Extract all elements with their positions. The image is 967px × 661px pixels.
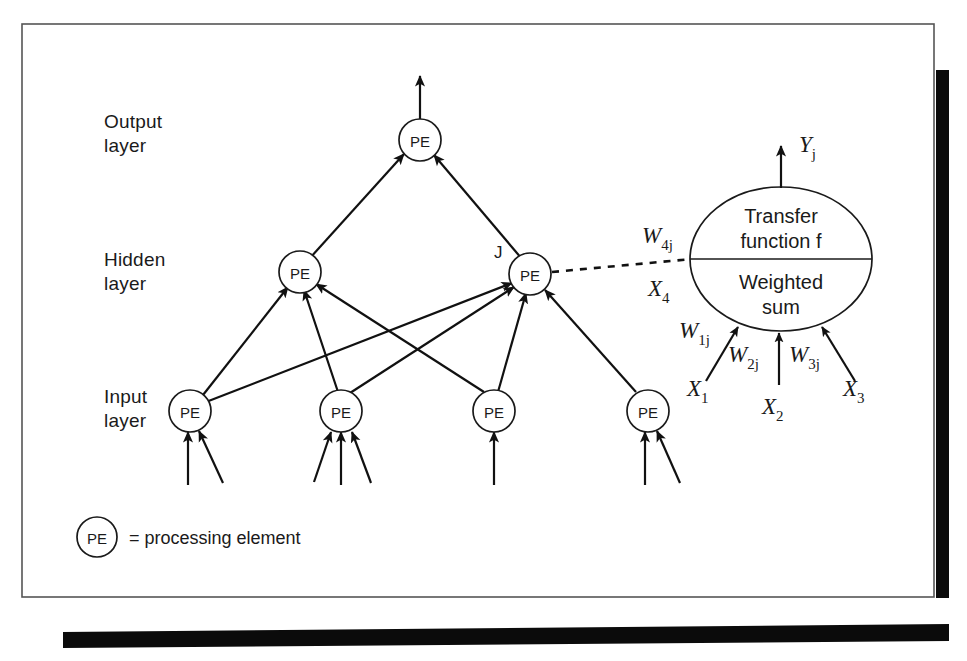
- layer-label-hidden: Hidden layer: [104, 249, 165, 294]
- weighted-sum-line2: sum: [762, 296, 800, 318]
- input-arrow-4b: [657, 431, 680, 483]
- input-layer-line2: layer: [104, 410, 147, 431]
- pe-node-hidden-1[interactable]: PE: [279, 251, 321, 293]
- input-3-label: X3: [842, 376, 865, 406]
- link-in2-h2: [350, 287, 514, 393]
- pe-node-input-1[interactable]: PE: [169, 390, 211, 432]
- pe-node-input-2-label: PE: [331, 404, 351, 421]
- layer-label-input: Input layer: [104, 386, 148, 431]
- bottom-shadow-bar: [63, 624, 949, 648]
- pe-node-input-2[interactable]: PE: [320, 390, 362, 432]
- link-in2-h1: [304, 290, 338, 392]
- weight-4-label: W4j: [642, 223, 673, 253]
- legend-pe-label: PE: [87, 530, 107, 547]
- layer-label-output: Output layer: [104, 111, 163, 156]
- transfer-function-line1: Transfer: [744, 205, 818, 227]
- hidden-layer-line2: layer: [104, 273, 147, 294]
- hidden-layer-line1: Hidden: [104, 249, 165, 270]
- input-4-label: X4: [647, 276, 670, 306]
- pe-node-output-label: PE: [410, 133, 430, 150]
- selected-node-j-label: J: [494, 243, 503, 262]
- input-layer-line1: Input: [104, 386, 148, 407]
- input-to-hidden-links: [203, 283, 636, 402]
- input-2-label: X2: [761, 394, 784, 424]
- weight-3-label: W3j: [789, 342, 820, 372]
- input-arrow-1b: [199, 431, 223, 483]
- external-input-arrows: [188, 431, 680, 485]
- pe-node-hidden-2[interactable]: PE: [509, 253, 551, 295]
- pe-node-input-4-label: PE: [638, 404, 658, 421]
- weight-2-label: W2j: [728, 342, 759, 372]
- output-layer-line2: layer: [104, 135, 147, 156]
- weighted-sum-line1: Weighted: [739, 271, 823, 293]
- link-in3-h2: [498, 293, 526, 392]
- transfer-function-line2: function f: [740, 230, 822, 252]
- pe-node-input-4[interactable]: PE: [627, 390, 669, 432]
- pe-node-output[interactable]: PE: [399, 119, 441, 161]
- output-layer-line1: Output: [104, 111, 163, 132]
- callout-dashed-link: [552, 259, 692, 272]
- detail-output-var: Yj: [799, 132, 816, 162]
- detail-callout: Transfer function f Weighted sum Yj W4j …: [642, 132, 872, 424]
- pe-node-input-3-label: PE: [484, 404, 504, 421]
- pe-node-input-1-label: PE: [180, 404, 200, 421]
- link-in4-h2: [545, 290, 636, 392]
- legend-description: = processing element: [129, 528, 301, 548]
- pe-node-input-3[interactable]: PE: [473, 390, 515, 432]
- pe-node-hidden-2-label: PE: [520, 267, 540, 284]
- hidden-to-output-links: [310, 154, 522, 259]
- link-h1-out: [310, 154, 404, 258]
- right-shadow-bar: [936, 70, 949, 598]
- pe-node-hidden-1-label: PE: [290, 265, 310, 282]
- link-in1-h1: [203, 287, 288, 395]
- detail-input-arrow-3: [822, 327, 855, 381]
- weight-1-label: W1j: [679, 318, 710, 348]
- link-h2-out: [434, 155, 522, 259]
- input-arrow-2a: [314, 432, 331, 482]
- network-diagram: Output layer Hidden layer Input layer: [0, 0, 967, 661]
- figure-root: Output layer Hidden layer Input layer: [0, 0, 967, 661]
- legend: PE = processing element: [77, 517, 301, 557]
- link-in1-h2: [206, 283, 512, 402]
- input-arrow-2c: [352, 432, 371, 483]
- link-in3-h1: [316, 284, 484, 392]
